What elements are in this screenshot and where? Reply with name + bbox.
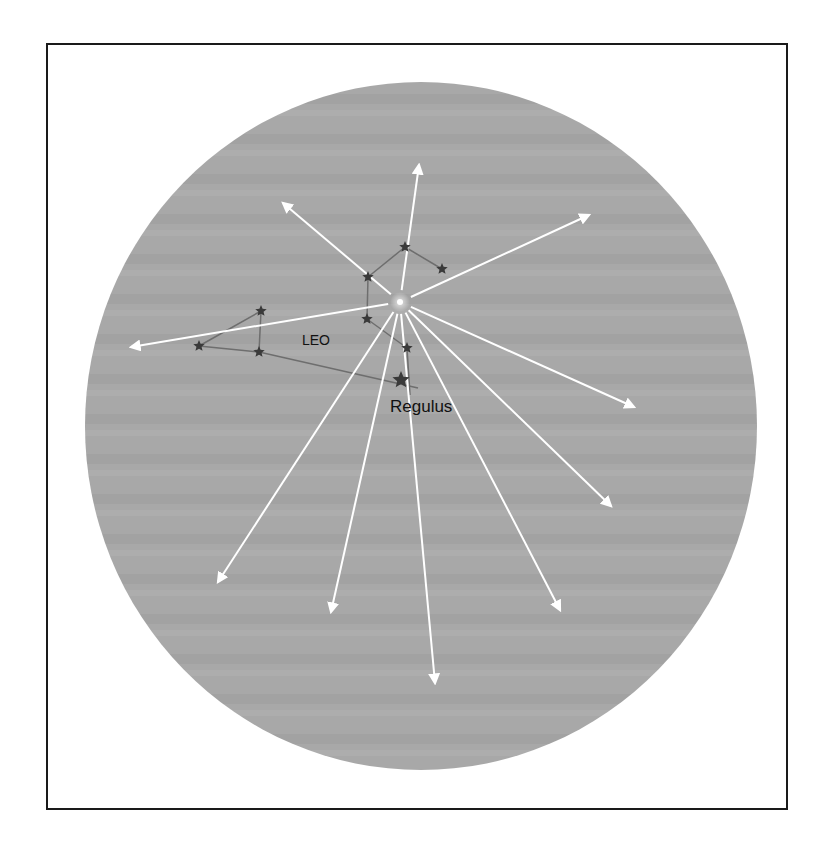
radiant-point <box>397 299 403 305</box>
star-label-regulus: Regulus <box>390 397 452 416</box>
constellation-line <box>367 277 368 319</box>
night-sky-disc <box>85 82 757 770</box>
constellation-label-leo: LEO <box>302 332 330 348</box>
sky-diagram: LEO Regulus <box>0 0 826 860</box>
